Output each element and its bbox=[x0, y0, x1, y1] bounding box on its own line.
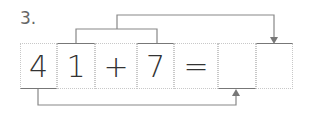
digit-box-ones: 1 bbox=[57, 43, 95, 89]
answer-box-tens[interactable] bbox=[218, 43, 256, 89]
operator-box: + bbox=[95, 43, 137, 89]
digit-tens: 4 bbox=[29, 49, 48, 84]
answer-box-ones[interactable] bbox=[256, 43, 293, 89]
plus-sign: + bbox=[103, 49, 128, 84]
equals-sign: = bbox=[183, 49, 208, 84]
addend-box: 7 bbox=[137, 43, 174, 89]
equals-box: = bbox=[174, 43, 218, 89]
digit-box-tens: 4 bbox=[20, 43, 57, 89]
addend: 7 bbox=[146, 49, 165, 84]
digit-ones: 1 bbox=[66, 49, 85, 84]
